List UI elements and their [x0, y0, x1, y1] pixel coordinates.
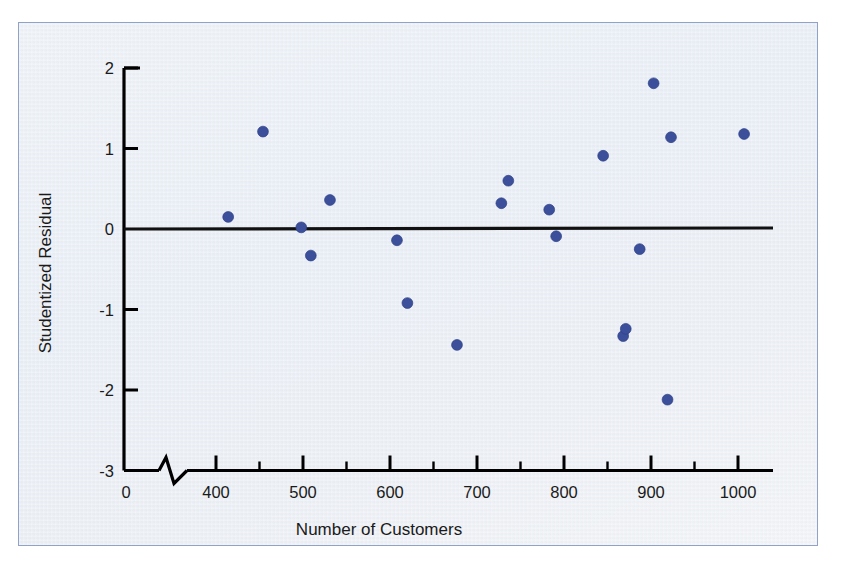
data-point	[544, 204, 555, 215]
axis-break-zigzag-icon	[159, 458, 187, 484]
tick-marks-group	[124, 68, 738, 471]
reference-line-zero	[124, 228, 773, 229]
screenshot-root: Studentized Residual Number of Customers…	[0, 0, 842, 573]
x-tick-label-800: 800	[550, 483, 578, 501]
data-point	[496, 198, 507, 209]
x-tick-label-900: 900	[637, 483, 665, 501]
x-tick-label-500: 500	[289, 483, 317, 501]
zero-reference-line	[124, 228, 773, 229]
y-tick-label-2: 2	[105, 59, 114, 77]
data-point	[666, 132, 677, 143]
data-point	[452, 340, 463, 351]
figure-frame: Studentized Residual Number of Customers…	[18, 22, 818, 546]
data-point	[551, 231, 562, 242]
data-point	[598, 150, 609, 161]
data-points-group	[223, 78, 750, 405]
x-axis-title: Number of Customers	[296, 520, 462, 539]
data-point	[258, 126, 269, 137]
data-point	[402, 298, 413, 309]
y-tick-label--3: -3	[99, 462, 114, 480]
x-tick-label-1000: 1000	[720, 483, 757, 501]
data-point	[392, 235, 403, 246]
x-tick-label-600: 600	[376, 483, 404, 501]
scatter-plot: Studentized Residual Number of Customers…	[19, 23, 819, 547]
data-point	[648, 78, 659, 89]
y-axis-title: Studentized Residual	[36, 193, 55, 354]
data-point	[620, 323, 631, 334]
data-point	[223, 212, 234, 223]
y-tick-label--2: -2	[99, 381, 114, 399]
x-tick-label-700: 700	[463, 483, 491, 501]
y-tick-label-1: 1	[105, 140, 114, 158]
data-point	[503, 175, 514, 186]
y-tick-label-0: 0	[105, 220, 114, 238]
data-point	[325, 195, 336, 206]
x-tick-label-400: 400	[202, 483, 230, 501]
data-point	[634, 244, 645, 255]
data-point	[296, 222, 307, 233]
data-point	[739, 129, 750, 140]
x-tick-label-0: 0	[121, 483, 130, 501]
y-tick-label--1: -1	[99, 301, 114, 319]
data-point	[305, 250, 316, 261]
data-point	[662, 394, 673, 405]
axes-group	[124, 68, 773, 484]
tick-labels-group: 210-1-2-304005006007008009001000	[99, 59, 756, 501]
